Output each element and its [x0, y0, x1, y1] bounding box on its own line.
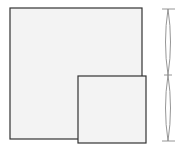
small-square — [78, 76, 146, 143]
bracket-arc-lower — [166, 75, 171, 141]
bracket-arc-upper — [166, 9, 171, 75]
height-bracket — [162, 9, 175, 141]
diagram-canvas — [0, 0, 184, 148]
